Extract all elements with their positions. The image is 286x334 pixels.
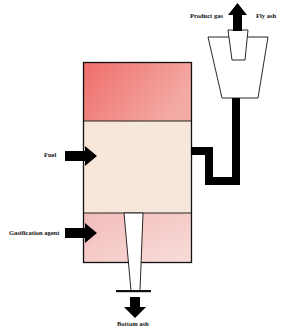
product-gas-arrow-icon bbox=[228, 3, 247, 31]
bottom-ash-arrow-icon bbox=[124, 297, 146, 318]
cyclone bbox=[208, 30, 268, 98]
label-bottom-ash: Bottom ash bbox=[117, 320, 149, 327]
gas-duct bbox=[191, 98, 240, 185]
label-product-gas: Product gas bbox=[190, 12, 223, 19]
middle-zone bbox=[84, 121, 191, 213]
top-zone bbox=[84, 63, 191, 121]
label-gasification-agent: Gasification agent bbox=[9, 229, 59, 236]
gasifier-diagram bbox=[0, 0, 286, 334]
label-fuel: Fuel bbox=[44, 151, 56, 158]
label-fly-ash: Fly ash bbox=[256, 12, 276, 19]
